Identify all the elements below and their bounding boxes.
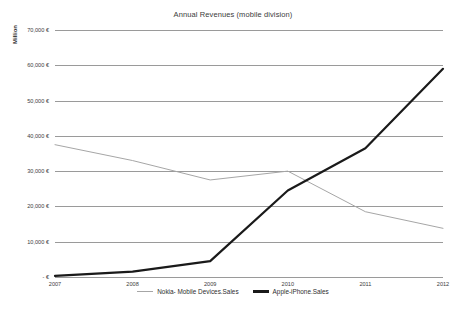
x-tick-label: 2010 bbox=[268, 281, 308, 287]
chart-container: Annual Revenues (mobile division) Millio… bbox=[0, 0, 466, 316]
legend-label: Apple-iPhone.Sales bbox=[273, 288, 329, 295]
y-tick-label: - € bbox=[0, 274, 49, 280]
y-tick-label: 20,000 € bbox=[0, 203, 49, 209]
y-tick-label: 40,000 € bbox=[0, 132, 49, 138]
y-tick-label: 70,000 € bbox=[0, 27, 49, 33]
y-tick-label: 60,000 € bbox=[0, 62, 49, 68]
legend-item[interactable]: Apple-iPhone.Sales bbox=[253, 288, 329, 295]
series-lines bbox=[55, 30, 443, 277]
series-line bbox=[55, 69, 443, 276]
y-tick-label: 30,000 € bbox=[0, 168, 49, 174]
y-tick-label: 10,000 € bbox=[0, 238, 49, 244]
legend-item[interactable]: Nokia- Mobile Devices.Sales bbox=[137, 288, 238, 295]
x-tick-label: 2009 bbox=[190, 281, 230, 287]
x-tick-label: 2008 bbox=[113, 281, 153, 287]
x-tick-label: 2012 bbox=[423, 281, 463, 287]
x-tick-label: 2007 bbox=[35, 281, 75, 287]
legend-swatch bbox=[137, 291, 153, 292]
plot-area: 70,000 €60,000 €50,000 €40,000 €30,000 €… bbox=[55, 30, 443, 277]
x-tick-label: 2011 bbox=[345, 281, 385, 287]
chart-legend: Nokia- Mobile Devices.SalesApple-iPhone.… bbox=[0, 288, 466, 295]
legend-label: Nokia- Mobile Devices.Sales bbox=[157, 288, 238, 295]
y-tick-label: 50,000 € bbox=[0, 97, 49, 103]
series-line bbox=[55, 145, 443, 229]
chart-title: Annual Revenues (mobile division) bbox=[0, 10, 466, 19]
legend-swatch bbox=[253, 290, 269, 292]
